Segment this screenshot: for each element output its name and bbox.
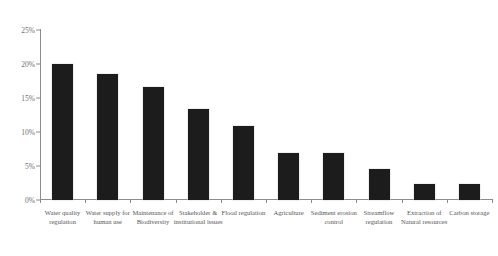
x-axis-category-label: Flood regulation — [219, 209, 268, 218]
y-axis-tick-label: 0% — [25, 196, 35, 205]
x-axis-tick-mark — [266, 199, 267, 203]
bar-chart: 25%20%15%10%5%0% Water quality regulatio… — [0, 0, 498, 256]
x-axis-tick-mark — [492, 199, 493, 203]
x-axis-category-label: Water supply for human use — [83, 209, 132, 226]
x-axis-tick-mark — [447, 199, 448, 203]
chart-title — [0, 0, 498, 6]
y-axis-tick-label: 15% — [21, 94, 35, 103]
y-axis-tick-label: 5% — [25, 162, 35, 171]
y-axis-tick-mark — [36, 64, 40, 65]
x-axis-category-label: Sediment erosion control — [309, 209, 358, 226]
y-axis-tick-mark — [36, 132, 40, 133]
y-axis-tick-label: 25% — [21, 26, 35, 35]
bar — [97, 74, 118, 200]
x-axis-tick-mark — [40, 199, 41, 203]
x-axis-category-label: Maintenance of Biodiversity — [128, 209, 177, 226]
x-axis-category-label: Extraction of Natural resources — [400, 209, 449, 226]
bar — [323, 153, 344, 200]
x-axis-tick-mark — [356, 199, 357, 203]
bar — [459, 184, 480, 200]
bar — [188, 109, 209, 200]
bar — [278, 153, 299, 200]
x-axis-category-label: Water quality regulation — [38, 209, 87, 226]
plot-area: 25%20%15%10%5%0% — [40, 30, 492, 200]
bar — [369, 169, 390, 200]
y-axis-tick-label: 20% — [21, 60, 35, 69]
bar — [414, 184, 435, 200]
x-axis-tick-mark — [85, 199, 86, 203]
x-axis-category-label: Stakeholder & institutional issues — [174, 209, 223, 226]
y-axis-tick-label: 10% — [21, 128, 35, 137]
x-axis-category-label: Carbon storage — [445, 209, 494, 218]
x-axis-category-label: Agriculture — [264, 209, 313, 218]
x-axis-tick-mark — [176, 199, 177, 203]
bar — [233, 126, 254, 200]
bar — [143, 87, 164, 200]
x-axis-tick-mark — [311, 199, 312, 203]
bar — [52, 64, 73, 200]
y-axis-tick-mark — [36, 30, 40, 31]
y-axis-tick-mark — [36, 98, 40, 99]
x-axis-category-label: Streamflow regulation — [354, 209, 403, 226]
y-axis-tick-mark — [36, 166, 40, 167]
x-axis-tick-mark — [130, 199, 131, 203]
x-axis-tick-mark — [221, 199, 222, 203]
x-axis-tick-mark — [402, 199, 403, 203]
